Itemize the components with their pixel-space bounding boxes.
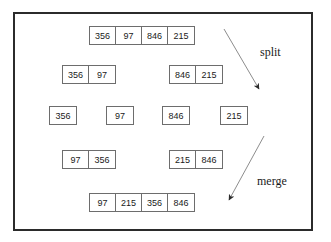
merge-label: merge <box>257 174 287 189</box>
row-sorted: 97 215 356 846 <box>89 193 195 212</box>
row-singletons: 356 97 846 215 <box>49 106 248 125</box>
cell-value: 356 <box>142 194 168 211</box>
cell-value: 215 <box>168 27 194 44</box>
cell-value: 846 <box>163 107 189 124</box>
group-right-sorted-pair: 215 846 <box>169 150 223 169</box>
group-right-half: 846 215 <box>169 65 223 84</box>
cell-value: 215 <box>170 151 196 168</box>
row-merged-pairs: 97 356 215 846 <box>62 150 223 169</box>
group-left-half: 356 97 <box>62 65 116 84</box>
group-single-215: 215 <box>220 106 248 125</box>
cell-value: 356 <box>63 66 89 83</box>
group-single-97: 97 <box>106 106 134 125</box>
cell-value: 215 <box>221 107 247 124</box>
cell-value: 846 <box>170 66 196 83</box>
row-split-halves: 356 97 846 215 <box>62 65 223 84</box>
cell-value: 846 <box>142 27 168 44</box>
cell-value: 97 <box>107 107 133 124</box>
diagram-frame: 356 97 846 215 356 97 846 215 356 97 <box>13 12 313 231</box>
cell-value: 356 <box>50 107 76 124</box>
cell-value: 215 <box>196 66 222 83</box>
cell-value: 97 <box>63 151 89 168</box>
cell-value: 846 <box>196 151 222 168</box>
split-arrow <box>224 29 259 89</box>
cell-value: 356 <box>89 151 115 168</box>
group-full-sorted: 97 215 356 846 <box>89 193 195 212</box>
cell-value: 215 <box>116 194 142 211</box>
cell-value: 846 <box>168 194 194 211</box>
split-label: split <box>260 45 281 60</box>
group-full-unsorted: 356 97 846 215 <box>89 26 195 45</box>
cell-value: 97 <box>90 194 116 211</box>
row-unsorted: 356 97 846 215 <box>89 26 195 45</box>
group-single-846: 846 <box>162 106 190 125</box>
merge-arrow <box>229 136 264 200</box>
cell-value: 356 <box>90 27 116 44</box>
cell-value: 97 <box>116 27 142 44</box>
group-left-sorted-pair: 97 356 <box>62 150 116 169</box>
group-single-356: 356 <box>49 106 77 125</box>
cell-value: 97 <box>89 66 115 83</box>
diagram-canvas: 356 97 846 215 356 97 846 215 356 97 <box>0 0 331 242</box>
